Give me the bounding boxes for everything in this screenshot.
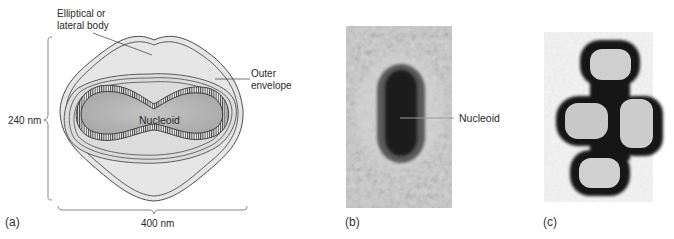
- panel-label-a: (a): [5, 215, 20, 229]
- virion-schematic-diagram: [0, 0, 674, 239]
- height-bracket: [44, 37, 52, 200]
- panel-label-c: (c): [543, 215, 557, 229]
- panel-label-b: (b): [345, 215, 360, 229]
- height-dimension-label: 240 nm: [8, 115, 41, 127]
- outer-envelope-label: Outer envelope: [251, 68, 292, 92]
- micrograph-c: [544, 32, 663, 202]
- nucleoid-label-b: Nucleoid: [459, 112, 500, 124]
- nucleoid-label-a: Nucleoid: [139, 114, 180, 126]
- width-bracket: [58, 206, 247, 214]
- lateral-body-label: Elliptical or lateral body: [57, 8, 109, 32]
- width-dimension-label: 400 nm: [141, 218, 174, 230]
- micrograph-b: [346, 26, 454, 208]
